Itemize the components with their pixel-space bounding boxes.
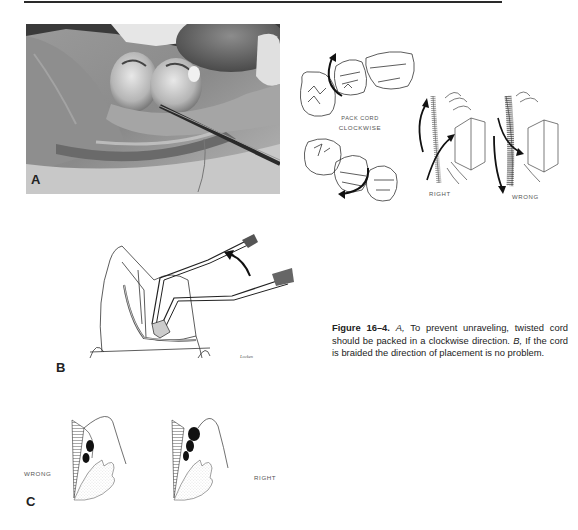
top-page-rule bbox=[24, 1, 502, 3]
panel-c-right-diagram bbox=[170, 418, 290, 508]
panel-b-letter: B bbox=[56, 360, 65, 375]
panel-c-right-label: RIGHT bbox=[254, 474, 276, 481]
panel-b-illustration: Locken bbox=[60, 240, 300, 370]
illustrator-signature: Locken bbox=[239, 354, 254, 359]
right-label: RIGHT bbox=[429, 191, 451, 197]
caption-part-b-letter: B, bbox=[513, 335, 522, 346]
figure-number: Figure 16–4. bbox=[332, 322, 390, 333]
panel-a-photograph: A bbox=[26, 24, 280, 194]
figure-caption: Figure 16–4. A, To prevent unraveling, t… bbox=[332, 322, 568, 360]
intraoral-photo-illustration: A bbox=[26, 24, 280, 194]
pack-cord-label: PACK CORD bbox=[341, 115, 378, 121]
twisted-cord-wrong-diagram: WRONG bbox=[490, 88, 570, 203]
wrong-label: WRONG bbox=[512, 194, 539, 200]
panel-c-wrong-label: WRONG bbox=[24, 470, 51, 477]
twisted-cord-right-diagram: RIGHT bbox=[415, 88, 490, 198]
panel-a-letter: A bbox=[31, 172, 41, 187]
clockwise-label: CLOCKWISE bbox=[339, 124, 382, 131]
panel-c-letter: C bbox=[26, 494, 35, 509]
caption-part-a-letter: A, bbox=[396, 322, 405, 333]
